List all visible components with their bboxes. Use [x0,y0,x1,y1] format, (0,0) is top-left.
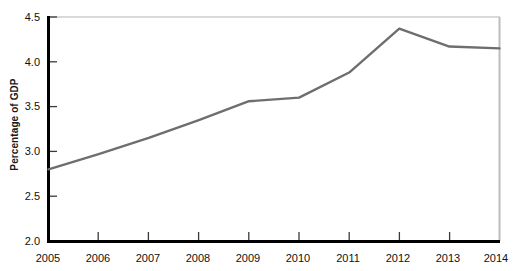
line-chart: Percentage of GDP 4.5 4.0 3.5 3.0 2.5 2.… [0,0,520,271]
x-axis [47,232,500,242]
data-series-line [49,29,500,170]
chart-canvas [0,0,520,271]
y-axis [49,16,58,242]
plot-frame [48,17,500,241]
